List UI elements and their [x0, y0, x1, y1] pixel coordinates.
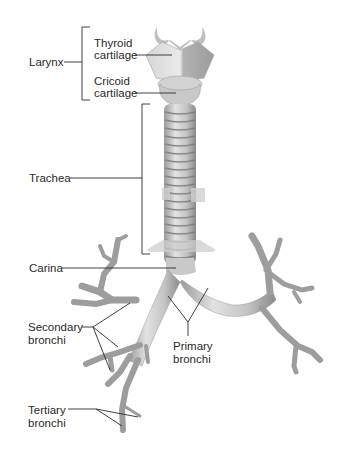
label-primary-bronchi-2: bronchi — [173, 353, 211, 365]
label-primary-bronchi-1: Primary — [173, 340, 213, 352]
trachea-structure — [146, 104, 216, 264]
label-secondary-bronchi-2: bronchi — [28, 334, 66, 346]
label-cricoid-cartilage-1: Cricoid — [94, 75, 130, 87]
label-trachea: Trachea — [29, 172, 71, 184]
cricoid-cartilage — [158, 76, 202, 106]
label-tertiary-bronchi-2: bronchi — [28, 417, 66, 429]
label-thyroid-cartilage-2: cartilage — [94, 49, 137, 61]
anatomy-illustration — [0, 0, 357, 462]
label-secondary-bronchi-1: Secondary — [28, 321, 83, 333]
label-tertiary-bronchi-1: Tertiary — [28, 404, 66, 416]
label-cricoid-cartilage-2: cartilage — [94, 87, 137, 99]
thyroid-cartilage — [146, 27, 214, 82]
label-larynx: Larynx — [29, 56, 64, 68]
label-thyroid-cartilage-1: Thyroid — [94, 37, 132, 49]
left-bronchial-tree — [74, 236, 148, 430]
label-carina: Carina — [29, 262, 63, 274]
